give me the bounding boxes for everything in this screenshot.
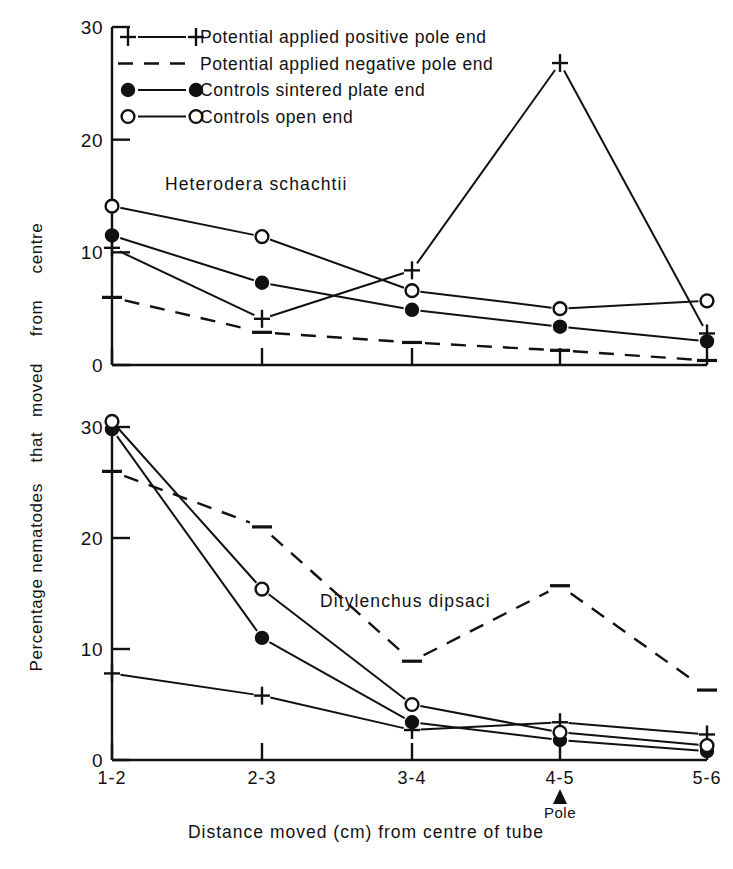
x-ticks-bottom: [112, 743, 707, 760]
series-segment: [275, 333, 399, 341]
legend-item-control_sintered[interactable]: Controls sintered plate end: [122, 80, 426, 100]
legend: Potential applied positive pole endPoten…: [118, 27, 493, 127]
series-bottom-1: [102, 471, 717, 690]
y-ticks-top: 0102030: [81, 17, 130, 376]
panel-title-bottom: Ditylenchus dipsaci: [320, 591, 491, 611]
series-segment: [117, 436, 257, 631]
open-circle-marker: [406, 284, 419, 297]
x-tick-label: 2-3: [247, 768, 276, 788]
series-segment: [573, 351, 694, 359]
filled-circle-marker: [406, 304, 418, 316]
open-circle-marker: [554, 726, 567, 739]
panel-title-top: Heterodera schachtii: [165, 174, 348, 194]
filled-circle-marker: [701, 335, 713, 347]
series-segment: [568, 328, 698, 341]
series-segment: [564, 71, 703, 326]
x-tick-label: 3-4: [397, 768, 426, 788]
y-axis-title-word: Percentage: [27, 579, 46, 672]
y-axis-title: Percentagenematodesthatmovedfromcentre: [27, 223, 46, 672]
series-segment: [425, 343, 547, 350]
series-segment: [124, 476, 250, 522]
legend-item-label: Controls sintered plate end: [200, 80, 425, 100]
open-circle-marker: [106, 200, 119, 213]
y-axis-title-word: moved: [27, 363, 46, 417]
x-axis-title: Distance moved (cm) from centre of tube: [188, 822, 544, 842]
y-tick-label: 10: [81, 242, 103, 263]
filled-circle-marker: [256, 632, 268, 644]
x-ticks-top: [112, 348, 707, 365]
y-axis-title-word: from: [27, 300, 46, 336]
figure-canvas: 01020300102030Heterodera schachtiiDityle…: [0, 0, 733, 869]
y-tick-label: 30: [81, 17, 103, 38]
y-tick-label: 10: [81, 639, 103, 660]
y-axis-title-word: nematodes: [27, 483, 46, 573]
series-segment: [417, 70, 555, 263]
open-circle-marker: [406, 698, 419, 711]
x-tick-labels: 1-22-33-44-55-6: [97, 768, 721, 788]
series-segment: [269, 642, 404, 718]
series-segment: [120, 675, 253, 695]
filled-circle-marker: [106, 229, 118, 241]
filled-circle-marker: [122, 84, 134, 96]
series-segment: [270, 698, 403, 729]
filled-circle-marker: [256, 277, 268, 289]
series-segment: [420, 311, 551, 326]
open-circle-marker: [106, 415, 119, 428]
legend-item-label: Potential applied positive pole end: [200, 27, 487, 47]
y-tick-label: 30: [81, 417, 103, 438]
series-segment: [118, 428, 257, 583]
legend-item-label: Potential applied negative pole end: [200, 54, 493, 74]
series-segment: [420, 292, 551, 308]
open-circle-marker: [122, 110, 135, 123]
open-circle-marker: [701, 739, 714, 752]
pole-marker-label: Pole: [544, 804, 576, 821]
filled-circle-marker: [554, 320, 566, 332]
open-circle-marker: [554, 302, 567, 315]
series-segment: [568, 301, 698, 308]
legend-item-control_open[interactable]: Controls open end: [122, 107, 354, 127]
y-tick-label: 20: [81, 528, 103, 549]
x-tick-label: 1-2: [97, 768, 126, 788]
series-segment: [270, 284, 403, 308]
series-segment: [120, 238, 254, 280]
legend-item-label: Controls open end: [200, 107, 353, 127]
y-axis-title-word: centre: [27, 223, 46, 274]
y-tick-label: 0: [92, 355, 103, 376]
pole-marker: Pole: [544, 789, 576, 821]
legend-item-negative[interactable]: Potential applied negative pole end: [118, 54, 493, 74]
x-tick-label: 5-6: [692, 768, 721, 788]
chart-svg: 01020300102030Heterodera schachtiiDityle…: [0, 0, 733, 869]
series-segment: [270, 239, 404, 287]
open-circle-marker: [256, 230, 269, 243]
series-segment: [568, 723, 698, 734]
up-triangle-icon: [553, 789, 567, 804]
y-axis-title-word: that: [27, 432, 46, 463]
open-circle-marker: [701, 294, 714, 307]
series-bottom-3: [106, 415, 714, 752]
series-segment: [571, 593, 697, 682]
series-top-3: [106, 200, 714, 315]
filled-circle-marker: [406, 716, 418, 728]
open-circle-marker: [256, 583, 269, 596]
series-segment: [120, 251, 255, 315]
series-segment: [120, 208, 253, 235]
x-tick-label: 4-5: [545, 768, 574, 788]
y-tick-label: 20: [81, 130, 103, 151]
legend-item-positive[interactable]: Potential applied positive pole end: [120, 27, 487, 47]
